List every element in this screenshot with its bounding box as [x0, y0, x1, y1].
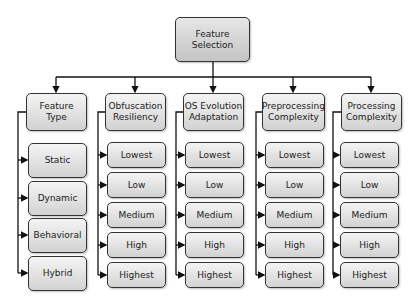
node-os-medium: Medium — [185, 202, 244, 228]
header-feature-type: Feature Type — [26, 93, 87, 131]
node-obf-medium: Medium — [107, 202, 166, 228]
node-obf-low: Low — [107, 172, 166, 198]
node-os-lowest: Lowest — [185, 142, 244, 168]
node-os-low: Low — [185, 172, 244, 198]
node-static: Static — [28, 143, 87, 178]
node-proc-low: Low — [340, 172, 399, 198]
node-obf-highest: Highest — [107, 262, 166, 288]
node-proc-highest: Highest — [340, 262, 399, 288]
node-prep-medium: Medium — [265, 202, 324, 228]
node-os-highest: Highest — [185, 262, 244, 288]
node-proc-high: High — [340, 232, 399, 258]
node-behavioral: Behavioral — [28, 218, 87, 253]
header-processing-complexity: Processing Complexity — [341, 93, 402, 131]
node-proc-lowest: Lowest — [340, 142, 399, 168]
node-prep-low: Low — [265, 172, 324, 198]
header-preprocessing-complexity: Preprocessing Complexity — [262, 93, 325, 131]
node-os-high: High — [185, 232, 244, 258]
root-node-feature-selection: Feature Selection — [175, 17, 250, 62]
node-proc-medium: Medium — [340, 202, 399, 228]
node-prep-high: High — [265, 232, 324, 258]
node-obf-high: High — [107, 232, 166, 258]
node-obf-lowest: Lowest — [107, 142, 166, 168]
node-dynamic: Dynamic — [28, 181, 87, 216]
header-obfuscation-resiliency: Obfuscation Resiliency — [105, 93, 166, 131]
node-prep-highest: Highest — [265, 262, 324, 288]
node-prep-lowest: Lowest — [265, 142, 324, 168]
header-os-evolution-adaptation: OS Evolution Adaptation — [183, 93, 244, 131]
node-hybrid: Hybrid — [28, 256, 87, 291]
